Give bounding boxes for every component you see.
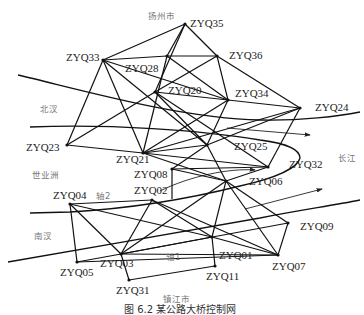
station-label: ZYQ31 [116,284,150,296]
station-label: ZYQ24 [315,101,349,113]
edge-ZYQ08-ZYQ06 [172,169,226,181]
region-label-changjiang: 长江 [338,153,356,163]
station-zyq33: ZYQ33 [66,51,105,63]
edge-ZYQ04-ZYQ01 [70,204,212,237]
station-label: ZYQ36 [229,49,263,61]
station-point-icon [266,165,269,168]
axis2-arrow [160,170,255,191]
station-point-icon [170,167,173,170]
station-label: ZYQ08 [134,168,168,180]
station-point-icon [226,98,229,101]
edge-ZYQ04-ZYQ05 [70,204,77,262]
station-point-icon [127,278,130,281]
figure-caption: 图 6.2 某公路大桥控制网 [124,303,236,315]
station-point-icon [210,235,213,238]
region-label-beihan: 北汊 [40,104,58,114]
river-line-north-bank [18,75,360,120]
station-zyq35: ZYQ35 [183,17,224,29]
station-label: ZYQ20 [168,84,202,96]
edge-ZYQ33-ZYQ28 [103,56,167,60]
station-point-icon [298,106,301,109]
edge-ZYQ06-ZYQ09 [226,181,288,223]
station-zyq34: ZYQ34 [226,87,269,102]
station-point-icon [75,260,78,263]
station-label: ZYQ21 [116,153,150,165]
station-label: ZYQ01 [219,249,253,261]
station-label: ZYQ04 [53,189,87,201]
station-zyq32: ZYQ32 [266,158,322,170]
station-label: ZYQ32 [289,158,323,170]
station-point-icon [119,252,122,255]
station-point-icon [165,54,168,57]
station-label: ZYQ23 [26,141,60,153]
station-point-icon [276,253,279,256]
station-zyq02: ZYQ02 [134,184,168,202]
station-point-icon [101,58,104,61]
station-point-icon [153,90,156,93]
station-zyq21: ZYQ21 [116,151,150,165]
station-zyq20: ZYQ20 [153,84,202,96]
edge-ZYQ33-ZYQ34 [103,60,228,100]
edge-ZYQ20-ZYQ23 [67,92,155,145]
station-point-icon [183,22,186,25]
station-point-icon [68,202,71,205]
bridge-control-network-diagram: ZYQ35ZYQ33ZYQ28ZYQ36ZYQ20ZYQ34ZYQ24ZYQ23… [0,0,364,315]
edge-ZYQ31-ZYQ11 [129,266,215,280]
station-label: ZYQ02 [134,184,168,196]
station-zyq07: ZYQ07 [272,253,306,272]
station-point-icon [65,143,68,146]
station-point-icon [150,198,153,201]
edge-ZYQ35-ZYQ33 [103,24,185,60]
station-label: ZYQ03 [100,257,134,269]
edge-ZYQ01-ZYQ11 [212,237,215,266]
station-point-icon [213,264,216,267]
station-point-icon [215,54,218,57]
station-zyq31: ZYQ31 [116,278,150,296]
station-label: ZYQ33 [66,51,100,63]
edge-ZYQ33-ZYQ23 [67,60,103,145]
station-zyq09: ZYQ09 [286,220,334,232]
region-label-shiyezhou: 世业洲 [32,170,59,180]
station-label: ZYQ11 [206,270,239,282]
station-zyq23: ZYQ23 [26,141,69,153]
station-point-icon [205,143,208,146]
station-label: ZYQ05 [60,266,94,278]
station-label: ZYQ34 [235,87,269,99]
station-label: ZYQ09 [300,220,334,232]
station-label: ZYQ07 [272,260,306,272]
station-zyq05: ZYQ05 [60,260,94,278]
edge-ZYQ09-ZYQ07 [278,223,288,255]
region-label-axis1: 轴1 [166,252,180,262]
region-label-yangzhou: 扬州市 [148,11,175,21]
region-label-axis2: 轴2 [96,191,110,201]
edge-ZYQ23-ZYQ21 [67,145,143,153]
station-label: ZYQ06 [249,175,283,187]
station-label: ZYQ35 [190,17,224,29]
edge-ZYQ03-ZYQ07 [121,254,278,255]
network-edges [67,24,300,280]
station-zyq08: ZYQ08 [134,167,174,180]
region-label-zhenjiang: 镇江市 [163,294,190,304]
station-label: ZYQ25 [234,140,268,152]
edge-ZYQ02-ZYQ03 [121,200,152,254]
region-label-nanhan: 南汊 [34,231,52,241]
station-point-icon [286,221,289,224]
axis1-arrow [245,189,322,209]
station-zyq24: ZYQ24 [298,101,349,113]
station-label: ZYQ28 [125,62,159,74]
station-point-icon [224,179,227,182]
